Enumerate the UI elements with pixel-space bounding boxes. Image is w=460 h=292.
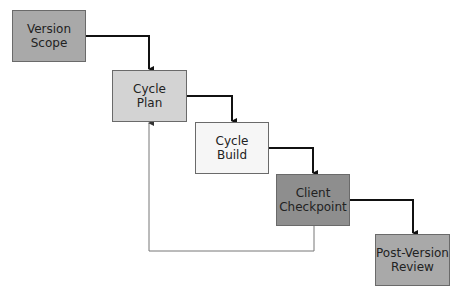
arrow-build-to-checkpoint: [269, 148, 313, 173]
node-cycle-build: Cycle Build: [195, 122, 269, 174]
node-version-scope: Version Scope: [12, 10, 86, 62]
node-client-checkpoint: Client Checkpoint: [276, 174, 350, 226]
node-cycle-plan: Cycle Plan: [112, 70, 187, 122]
arrow-plan-to-build: [187, 96, 232, 121]
arrow-checkpoint-to-review: [350, 200, 413, 233]
node-post-version-review: Post-Version Review: [375, 234, 450, 286]
arrow-scope-to-plan: [86, 36, 149, 69]
